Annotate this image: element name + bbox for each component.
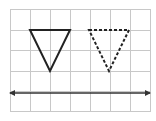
grid-diagram [0,0,156,121]
grid [10,9,151,112]
